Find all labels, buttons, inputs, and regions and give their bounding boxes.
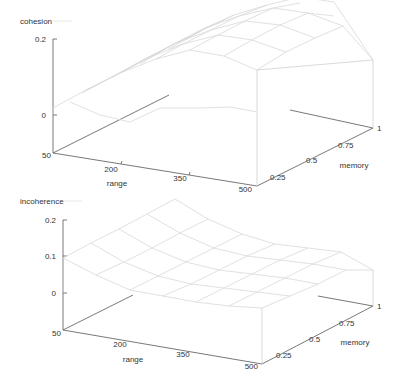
- cohesion-y-tick: 1: [377, 124, 382, 133]
- cohesion-range-axis: [53, 153, 257, 186]
- incoherence-z-tick: 0.2: [45, 216, 57, 225]
- cohesion-back-left-axis: [53, 95, 169, 153]
- cohesion-z-tick: 0.2: [35, 35, 47, 44]
- cohesion-x-tick: 50: [42, 151, 51, 160]
- cohesion-z-tick: 0: [42, 111, 47, 120]
- incoherence-x-tick: 500: [245, 362, 259, 371]
- incoherence-y-tick: 0.25: [276, 351, 292, 360]
- incoherence-y-tick: 0.5: [309, 335, 321, 344]
- incoherence-legend-label: incoherence: [20, 197, 64, 206]
- incoherence-x-tick: 200: [113, 340, 127, 349]
- incoherence-z-tick: 0: [52, 289, 57, 298]
- cohesion-y-tick: 0.75: [338, 141, 354, 150]
- incoherence-y-tick: 1: [377, 302, 382, 311]
- cohesion-surface: [53, 0, 373, 186]
- incoherence-range-axis: [63, 330, 262, 364]
- incoherence-surface: [63, 199, 373, 364]
- cohesion-legend-label: cohesion: [20, 17, 52, 26]
- cohesion-x-label: range: [107, 179, 128, 188]
- charts-canvas: cohesion 0.2 0 50 200 350 500 range 0.25…: [0, 0, 397, 384]
- cohesion-x-tick: 200: [104, 165, 118, 174]
- cohesion-plot: cohesion 0.2 0 50 200 350 500 range 0.25…: [20, 0, 382, 194]
- incoherence-x-tick: 350: [176, 350, 190, 359]
- incoherence-back-left-axis: [63, 295, 133, 330]
- incoherence-plot: incoherence 0.2 0.1 0 50 200 350 500 ran…: [20, 197, 382, 371]
- cohesion-y-label: memory: [340, 161, 369, 170]
- incoherence-z-tick: 0.1: [45, 252, 57, 261]
- cohesion-y-tick: 0.25: [270, 173, 286, 182]
- cohesion-x-tick: 350: [173, 174, 187, 183]
- incoherence-x-label: range: [123, 355, 144, 364]
- incoherence-x-tick: 50: [52, 329, 61, 338]
- cohesion-x-tick: 500: [239, 185, 253, 194]
- incoherence-y-label: memory: [341, 338, 370, 347]
- cohesion-y-tick: 0.5: [306, 156, 318, 165]
- incoherence-y-tick: 0.75: [339, 319, 355, 328]
